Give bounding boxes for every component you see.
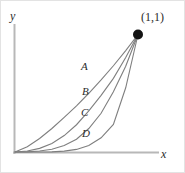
curve-label-d: D [82, 127, 90, 139]
curve-label-a: A [81, 60, 88, 72]
y-axis-label: y [10, 9, 15, 24]
curve-a [15, 35, 138, 153]
plot-canvas [1, 1, 185, 173]
math-figure: y x (1,1) A B C D [0, 0, 185, 173]
endpoint-coordinate-label: (1,1) [141, 10, 164, 25]
x-axis-label: x [161, 147, 166, 162]
endpoint-marker [133, 30, 143, 40]
curve-d [15, 35, 138, 153]
curve-label-b: B [82, 85, 89, 97]
curve-b [15, 35, 138, 153]
curve-c [15, 35, 138, 153]
curve-label-c: C [81, 106, 88, 118]
